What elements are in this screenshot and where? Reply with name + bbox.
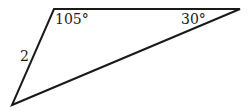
triangle-diagram: 105° 30° 2 bbox=[0, 0, 252, 112]
angle-label-30: 30° bbox=[181, 12, 206, 26]
triangle-shape bbox=[0, 0, 252, 112]
angle-label-105: 105° bbox=[55, 12, 89, 26]
side-label-2: 2 bbox=[20, 49, 29, 63]
